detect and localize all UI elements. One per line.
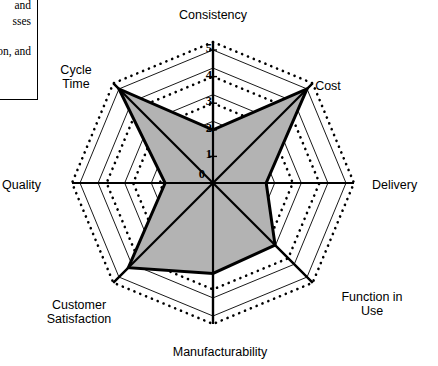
axis-label-manufacturability: Manufacturability	[155, 345, 285, 359]
axis-label-text-line1: Function in	[341, 290, 402, 304]
axis-label-text: Delivery	[372, 178, 417, 192]
axis-label-consistency: Consistency	[173, 8, 253, 22]
scale-tick-text: 2	[206, 121, 212, 135]
axis-label-cost: Cost	[303, 79, 353, 93]
axis-label-customer-satisfaction: Customer Satisfaction	[30, 298, 128, 326]
scale-tick-0: 0	[191, 167, 205, 182]
scale-tick-text: 0	[199, 167, 205, 181]
scale-tick-text: 3	[206, 94, 212, 108]
axis-label-text-line1: Customer	[52, 298, 106, 312]
axis-label-delivery: Delivery	[372, 178, 434, 192]
axis-label-text: Cost	[315, 79, 341, 93]
axis-label-cycle-time: Cycle Time	[48, 63, 104, 91]
axis-label-quality: Quality	[2, 178, 64, 192]
axis-label-text-line2: Use	[361, 304, 383, 318]
scale-tick-text: 1	[206, 147, 212, 161]
scale-tick-5: 5	[198, 41, 212, 56]
axis-label-text-line2: Time	[62, 77, 89, 91]
axis-label-text: Consistency	[179, 8, 247, 22]
scale-tick-text: 4	[206, 68, 212, 82]
axis-label-text-line2: Satisfaction	[47, 312, 112, 326]
scale-tick-2: 2	[198, 121, 212, 136]
scale-tick-4: 4	[198, 68, 212, 83]
scale-tick-1: 1	[198, 147, 212, 162]
chart-stage: and sses on, and Consistency Cost Delive…	[0, 0, 438, 366]
axis-label-text: Manufacturability	[173, 345, 268, 359]
scale-tick-3: 3	[198, 94, 212, 109]
axis-label-function-in-use: Function in Use	[330, 290, 414, 318]
axis-label-text: Quality	[2, 178, 41, 192]
scale-tick-text: 5	[206, 41, 212, 55]
axis-label-text-line1: Cycle	[60, 63, 91, 77]
